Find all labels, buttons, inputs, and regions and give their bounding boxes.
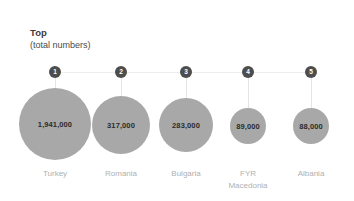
bubble-albania[interactable]: 88,000: [293, 108, 329, 144]
bubble-fyr-macedonia[interactable]: 89,000: [230, 108, 266, 144]
rank-badge-4[interactable]: 4: [242, 66, 254, 78]
bubble-bulgaria[interactable]: 283,000: [159, 98, 213, 152]
bubble-value-romania: 317,000: [107, 121, 135, 130]
bubble-romania[interactable]: 317,000: [92, 96, 150, 154]
chart-title: Top: [30, 27, 91, 39]
chart-header: Top (total numbers): [30, 27, 91, 51]
connector-line-4: [248, 78, 249, 110]
category-label-line: Albania: [266, 168, 354, 180]
bubble-value-albania: 88,000: [299, 122, 323, 131]
bubble-value-turkey: 1,941,000: [38, 120, 72, 129]
bubble-value-fyr-macedonia: 89,000: [236, 122, 260, 131]
bubble-value-bulgaria: 283,000: [172, 121, 200, 130]
category-label-albania: Albania: [266, 168, 354, 180]
connector-line-2: [121, 78, 122, 98]
rank-badge-3[interactable]: 3: [180, 66, 192, 78]
category-label-line: Macedonia: [203, 180, 293, 192]
connector-line-5: [311, 78, 312, 110]
rank-badge-2[interactable]: 2: [115, 66, 127, 78]
connector-line-3: [186, 78, 187, 100]
bubble-turkey[interactable]: 1,941,000: [19, 88, 91, 160]
bubble-chart: Top (total numbers) 1 2 3 4 5 1,941,000 …: [0, 0, 354, 201]
rank-badge-5[interactable]: 5: [305, 66, 317, 78]
chart-subtitle: (total numbers): [30, 40, 91, 51]
rank-badge-1[interactable]: 1: [49, 66, 61, 78]
